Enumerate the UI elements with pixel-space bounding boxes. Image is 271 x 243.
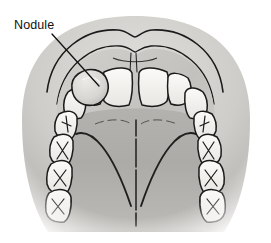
- oral-cavity-illustration: [0, 0, 271, 243]
- nodule-figure: Nodule: [0, 0, 271, 243]
- nodule-label: Nodule: [14, 18, 54, 32]
- vignette: [0, 0, 271, 243]
